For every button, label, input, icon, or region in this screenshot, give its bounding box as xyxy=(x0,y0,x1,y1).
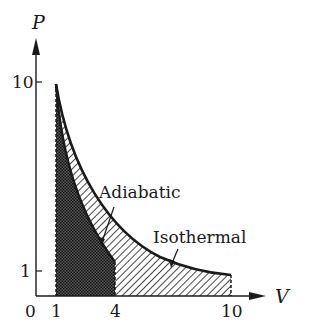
y-axis-label: P xyxy=(31,11,46,33)
x-tick-label-4: 4 xyxy=(110,301,121,321)
isothermal-label: Isothermal xyxy=(153,227,246,247)
x-tick-label-10: 10 xyxy=(221,301,243,321)
x-axis-arrow-icon xyxy=(249,292,266,300)
adiabatic-label: Adiabatic xyxy=(98,182,181,202)
pv-diagram: P V 10 1 0 1 4 10 Adiabatic Isothermal xyxy=(0,0,327,327)
y-tick-label-1: 1 xyxy=(20,261,31,281)
origin-label: 0 xyxy=(25,301,36,321)
y-axis-arrow-icon xyxy=(32,38,40,55)
y-tick-label-10: 10 xyxy=(12,72,34,92)
x-tick-label-1: 1 xyxy=(51,301,62,321)
x-axis-label: V xyxy=(275,285,291,307)
